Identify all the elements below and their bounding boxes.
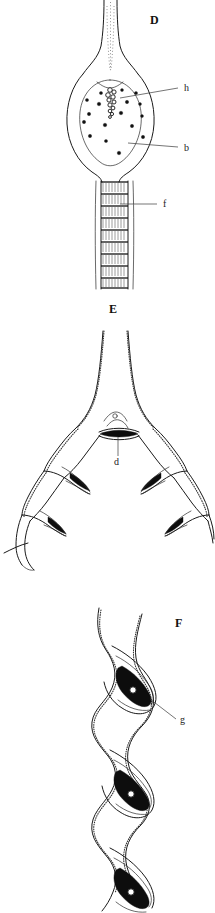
hatch-row (103, 219, 124, 228)
branch-right-stipple (153, 429, 185, 473)
panel-e-drawing: d E (0, 295, 215, 585)
branch-left-stipple (46, 429, 78, 473)
nucleus (141, 135, 144, 138)
branch-right-lower-stipple (185, 473, 207, 517)
nucleus (121, 89, 124, 92)
turn3-dark-lobe (114, 868, 149, 909)
duct-outer-left (95, 181, 96, 289)
nucleus (119, 111, 123, 115)
panel-e: d E (0, 295, 215, 585)
nucleus (117, 151, 121, 155)
turn3-vesicle (128, 889, 134, 895)
branch-right-upper-inner (138, 435, 174, 478)
hatch-row (103, 183, 124, 192)
branch-left-upper-outer (44, 428, 76, 471)
branch-left-lower-stipple (24, 473, 46, 517)
granule (109, 116, 112, 119)
panel-d: h b f D (0, 0, 215, 300)
nucleus (99, 91, 102, 94)
hatch-row (103, 279, 124, 287)
panel-d-drawing: h b f D (0, 0, 215, 300)
nucleus (134, 91, 137, 94)
turn1-vesicle (130, 687, 136, 693)
nucleus (82, 120, 85, 123)
stalk-right-wall (117, 0, 138, 74)
duct-outer-right (133, 181, 134, 289)
inner-body-group (80, 80, 142, 166)
granule (112, 90, 116, 94)
trunk-left-stipple (77, 331, 104, 428)
nucleus (97, 102, 101, 106)
stalk-lumen-left (107, 6, 110, 70)
callout-b-label: b (184, 142, 189, 153)
callout-f-label: f (163, 198, 167, 209)
nucleus (104, 139, 107, 142)
nucleus (125, 100, 128, 103)
callout-g-leader (150, 699, 176, 719)
panel-f: g F (0, 580, 215, 913)
branch-left-group (4, 428, 100, 570)
granule (111, 95, 115, 99)
fork-vesicle (113, 414, 117, 418)
callout-h-label: h (184, 82, 189, 93)
trunk-right-stipple (127, 331, 154, 428)
nucleus (85, 98, 88, 101)
apical-notch (97, 82, 123, 88)
granule (112, 100, 116, 104)
ladder-duct-group (95, 181, 134, 289)
panel-letter-e: E (109, 302, 117, 316)
stalk-left-wall (83, 0, 104, 74)
turn1-dark-lobe-g (116, 666, 151, 707)
ribbon-left-margin-group (92, 608, 118, 911)
turn2-vesicle (128, 791, 134, 797)
panel-d-callouts: h b f (120, 82, 189, 209)
spiral-turn-1 (104, 646, 156, 714)
fork-dark-bar (100, 430, 138, 437)
envelope-left (67, 74, 102, 182)
nucleus (88, 134, 91, 137)
inner-body-outline (80, 80, 142, 166)
branch-left-tip-inner (25, 521, 34, 570)
granular-cluster-h (106, 88, 116, 119)
branch-left-tip-outer (16, 515, 22, 565)
granule (110, 112, 113, 115)
hatch-row (103, 231, 124, 240)
granule (111, 106, 115, 110)
ribbon-right-edge (126, 614, 154, 896)
callout-g-label: g (180, 714, 185, 725)
panel-f-drawing: g F (0, 580, 215, 913)
duct-hatching (103, 183, 124, 287)
hatch-row (103, 255, 124, 264)
fork-arch-inner (107, 420, 128, 428)
nucleus (87, 112, 90, 115)
hatch-row (103, 267, 124, 276)
nucleus (141, 115, 144, 118)
branch-right-group (138, 428, 214, 543)
nucleus (130, 124, 133, 127)
envelope-right (119, 74, 154, 182)
figure-plate: h b f D (0, 0, 215, 913)
fork-group (99, 412, 139, 440)
callout-d-label: d (114, 456, 119, 467)
panel-e-callouts: d (114, 437, 119, 467)
callout-h-leader (120, 88, 178, 98)
branch-right-lower-inner (174, 478, 208, 521)
trunk-group (76, 331, 155, 428)
hatch-row (103, 195, 124, 204)
nucleus (139, 103, 142, 106)
nucleus (103, 123, 107, 127)
hatch-row (103, 207, 124, 216)
callout-b-leader (128, 143, 178, 147)
granule (106, 93, 111, 98)
stalk-lumen-right (111, 6, 114, 70)
granule (107, 98, 111, 102)
ribbon-left-edge (92, 608, 116, 911)
panel-f-callouts: g (150, 699, 185, 725)
stalk-group (83, 0, 138, 74)
hatch-row (103, 243, 124, 252)
panel-letter-d: D (150, 13, 159, 27)
spiral-turn-3 (110, 848, 154, 912)
panel-letter-f: F (175, 616, 182, 630)
